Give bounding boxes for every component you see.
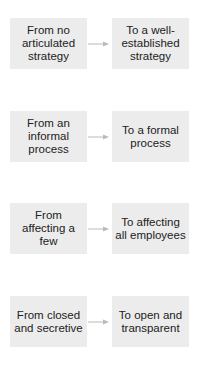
arrow-right-icon — [88, 133, 110, 141]
from-box-openness: From closed and secretive — [10, 296, 87, 347]
from-label: From closed and secretive — [12, 309, 85, 335]
to-box-openness: To open and transparent — [112, 296, 189, 347]
to-label: To a well-established strategy — [114, 24, 187, 63]
from-label: From an informal process — [12, 117, 85, 156]
arrow-right-icon — [88, 318, 110, 326]
to-label: To a formal process — [114, 124, 187, 150]
to-box-reach: To affecting all employees — [112, 203, 189, 254]
to-box-process: To a formal process — [112, 111, 189, 162]
to-box-strategy: To a well-established strategy — [112, 18, 189, 69]
from-box-process: From an informal process — [10, 111, 87, 162]
from-label: From affecting a few — [12, 209, 85, 248]
arrow-right-icon — [88, 225, 110, 233]
arrow-right-icon — [88, 40, 110, 48]
from-box-strategy: From no articulated strategy — [10, 18, 87, 69]
from-box-reach: From affecting a few — [10, 203, 87, 254]
to-label: To affecting all employees — [114, 216, 187, 242]
to-label: To open and transparent — [114, 309, 187, 335]
from-label: From no articulated strategy — [12, 24, 85, 63]
